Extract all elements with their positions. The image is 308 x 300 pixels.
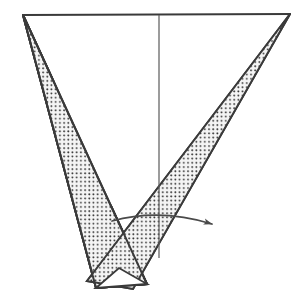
geometric-figure	[0, 0, 308, 300]
figure-container	[0, 0, 308, 300]
top-edge-line	[23, 14, 290, 15]
